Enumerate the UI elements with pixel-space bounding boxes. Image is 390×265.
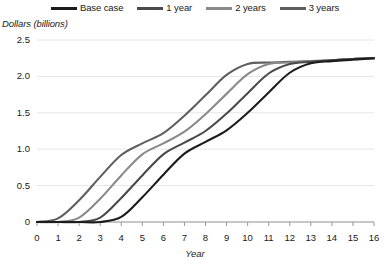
y-tick-label: 2.5 [4,35,30,45]
legend-line-swatch [137,7,163,10]
series-line [37,58,374,222]
x-tick-label: 1 [55,233,60,243]
x-axis-tick-labels: 012345678910111213141516 [0,233,390,247]
legend-item[interactable]: 1 year [137,3,192,13]
x-tick-label: 4 [119,233,124,243]
legend-item[interactable]: 2 years [206,3,265,13]
x-axis-title: Year [0,249,390,259]
x-tick-label: 0 [34,233,39,243]
y-tick-label: 1.5 [4,108,30,118]
legend-line-swatch [51,7,77,10]
y-tick-label: 1.0 [4,144,30,154]
y-axis-tick-labels: 00.51.01.52.02.5 [0,30,30,230]
x-tick-label: 11 [264,233,274,243]
chart-legend: Base case1 year2 years3 years [0,0,390,16]
series-line [37,58,374,222]
x-tick-label: 3 [98,233,103,243]
y-tick-label: 0.5 [4,181,30,191]
chart-plot-area [0,30,390,230]
y-axis-title: Dollars (billions) [2,19,68,29]
x-tick-label: 9 [224,233,229,243]
legend-item-label: 2 years [235,3,265,13]
legend-item[interactable]: 3 years [280,3,339,13]
y-tick-label: 2.0 [4,72,30,82]
legend-item[interactable]: Base case [51,3,123,13]
x-tick-label: 15 [348,233,359,243]
legend-item-label: 3 years [309,3,339,13]
footnote-clipped [150,261,390,265]
line-chart-svg [0,30,390,230]
x-tick-label: 14 [327,233,338,243]
x-tick-label: 2 [76,233,81,243]
data-series-group [37,58,374,222]
legend-item-label: Base case [80,3,123,13]
x-tick-label: 13 [306,233,317,243]
x-tick-label: 8 [203,233,208,243]
x-tick-label: 5 [140,233,145,243]
series-line [37,58,374,222]
x-tick-label: 16 [369,233,380,243]
x-tick-label: 7 [182,233,187,243]
legend-line-swatch [206,7,232,10]
x-tick-label: 6 [161,233,166,243]
legend-line-swatch [280,7,306,10]
series-line [37,58,374,222]
legend-item-label: 1 year [166,3,192,13]
y-tick-label: 0 [4,217,30,227]
x-tick-label: 12 [284,233,295,243]
x-tick-label: 10 [242,233,253,243]
